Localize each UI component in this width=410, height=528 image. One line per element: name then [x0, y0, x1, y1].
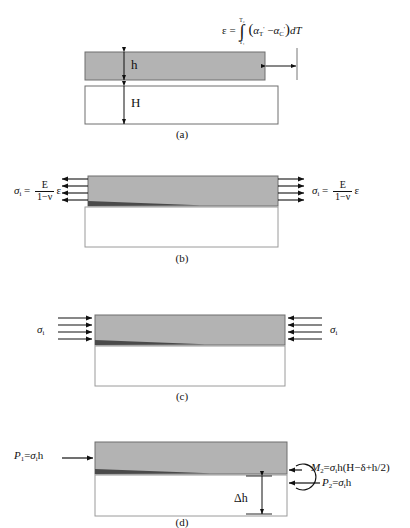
panel-d-coating-bar	[95, 442, 287, 474]
strain-symbol: ε	[354, 184, 359, 196]
panel-c-caption: (c)	[152, 390, 212, 402]
panel-d-substrate-bar	[95, 475, 287, 516]
integral-operator: T₂ ∫ T₁	[239, 18, 244, 46]
panel-b-caption: (b)	[152, 252, 212, 264]
panel-a-drawing	[85, 48, 297, 124]
sigma-subscript: i	[42, 329, 44, 336]
fraction-numerator: E	[35, 180, 54, 191]
panel-d-label-M2: M2=σih(H−δ+h/2)	[311, 462, 390, 475]
fraction-denominator: 1−ν	[333, 191, 352, 203]
panel-c-coating-bar	[95, 315, 285, 345]
panel-b-equation-left: σi = E 1−ν ε	[14, 180, 61, 202]
fraction-denominator: 1−ν	[35, 191, 54, 203]
panel-c-label-left: σi	[37, 324, 44, 337]
panel-a-coating-bar	[85, 52, 265, 80]
panel-a-strain-equation: ε = T₂ ∫ T₁ (αT' −αC')dT	[222, 18, 302, 46]
panel-d-caption: (d)	[152, 516, 212, 528]
panel-c-drawing	[58, 315, 322, 386]
panel-d-drawing	[62, 442, 320, 516]
sigma-subscript: i	[19, 190, 21, 197]
panel-b-coating-bar	[88, 176, 278, 206]
thickness-h: h	[38, 449, 44, 461]
modulus-fraction: E 1−ν	[35, 180, 54, 202]
panel-a-caption: (a)	[152, 128, 212, 140]
panel-b-substrate-bar	[85, 207, 278, 247]
moment-expression: h(H−δ+h/2)	[337, 461, 389, 473]
panel-a-substrate-bar	[85, 86, 278, 124]
sigma-subscript: i	[335, 329, 337, 336]
panel-b-equation-right: σi = E 1−ν ε	[312, 180, 359, 202]
panel-c-substrate-bar	[95, 346, 285, 386]
M2-symbol: M	[311, 461, 320, 473]
panel-b-drawing	[62, 176, 304, 247]
strain-symbol: ε	[56, 184, 61, 196]
differential-dT: dT	[290, 24, 302, 36]
integral-lower-limit: T₁	[239, 40, 244, 45]
equals-sign: =	[24, 184, 30, 196]
figure-thermal-stress-bilayer: h H ε = T₂ ∫ T₁ (αT' −αC')dT (a) σi = E …	[0, 0, 410, 528]
panel-d-label-P1: P1=σih	[14, 450, 43, 463]
alpha-thermal-prime: '	[263, 25, 264, 32]
integral-sign: ∫	[239, 23, 244, 40]
P1-symbol: P	[14, 449, 21, 461]
panel-a-label-H: H	[131, 96, 140, 109]
figure-drawing	[0, 0, 410, 528]
equals-sign: =	[322, 184, 328, 196]
P2-symbol: P	[322, 476, 329, 488]
panel-c-label-right: σi	[330, 324, 337, 337]
panel-a-label-h: h	[131, 58, 138, 71]
panel-d-label-P2: P2=σih	[322, 477, 351, 490]
thickness-h: h	[346, 476, 352, 488]
fraction-numerator: E	[333, 180, 352, 191]
strain-symbol: ε	[222, 24, 227, 36]
modulus-fraction: E 1−ν	[333, 180, 352, 202]
panel-d-label-delta-h: Δh	[234, 492, 248, 504]
equals-sign: =	[229, 24, 235, 36]
sigma-subscript: i	[317, 190, 319, 197]
